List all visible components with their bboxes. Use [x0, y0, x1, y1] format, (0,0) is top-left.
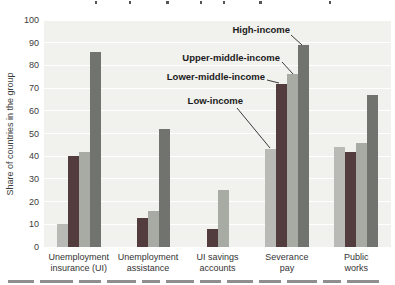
bar-high-income — [159, 129, 170, 247]
category-label-line: insurance (UI) — [44, 263, 113, 274]
bar-upper-middle-income — [287, 74, 298, 247]
cropped-title-letter-fragment — [329, 1, 331, 4]
gridline — [44, 42, 391, 43]
category-label-line: UI savings — [183, 252, 252, 263]
annotation-label-high-income: High-income — [232, 24, 290, 35]
cropped-title-letter-fragment — [166, 1, 169, 4]
bar-low-income — [57, 224, 68, 247]
bar-low-income — [334, 147, 345, 247]
bar-lower-middle-income — [207, 229, 218, 247]
bar-high-income — [298, 45, 309, 247]
cropped-caption-letter-fragment — [200, 280, 221, 283]
category-label-unemployment-assistance: Unemploymentassistance — [113, 252, 182, 274]
y-tick-label: 90 — [0, 38, 39, 49]
cropped-title-letter-fragment — [95, 1, 97, 4]
cropped-title-letter-fragment — [259, 1, 262, 4]
y-tick-label: 100 — [0, 15, 39, 26]
category-label-line: Public — [322, 252, 391, 263]
bar-low-income — [265, 149, 276, 247]
bar-lower-middle-income — [345, 152, 356, 247]
bar-upper-middle-income — [148, 211, 159, 247]
annotation-label-upper-middle-income: Upper-middle-income — [182, 52, 280, 63]
category-label-line: Severance — [252, 252, 321, 263]
category-label-line: Unemployment — [44, 252, 113, 263]
cropped-caption-letter-fragment — [8, 280, 34, 283]
bar-lower-middle-income — [68, 156, 79, 247]
category-label-line: works — [322, 263, 391, 274]
annotation-label-lower-middle-income: Lower-middle-income — [167, 71, 265, 82]
y-tick-label: 30 — [0, 174, 39, 185]
y-tick-label: 40 — [0, 151, 39, 162]
bar-lower-middle-income — [137, 218, 148, 248]
category-label-line: Unemployment — [113, 252, 182, 263]
cropped-caption-letter-fragment — [107, 280, 136, 283]
category-label-ui-savings-accounts: UI savingsaccounts — [183, 252, 252, 274]
y-tick-label: 70 — [0, 83, 39, 94]
gridline — [44, 20, 391, 21]
bar-high-income — [90, 52, 101, 247]
bar-high-income — [367, 95, 378, 247]
cropped-caption-letter-fragment — [323, 280, 341, 283]
cropped-title-letter-fragment — [129, 1, 131, 4]
cropped-caption-letter-fragment — [79, 280, 101, 283]
cropped-title-letter-fragment — [200, 1, 202, 4]
y-tick-label: 50 — [0, 129, 39, 140]
bar-upper-middle-income — [356, 143, 367, 247]
annotation-label-low-income: Low-income — [188, 95, 243, 106]
bar-upper-middle-income — [79, 152, 90, 247]
y-tick-label: 80 — [0, 60, 39, 71]
category-label-line: accounts — [183, 263, 252, 274]
cropped-caption-letter-fragment — [40, 280, 73, 283]
y-tick-label: 10 — [0, 219, 39, 230]
category-label-line: pay — [252, 263, 321, 274]
category-label-unemployment-insurance-ui-: Unemploymentinsurance (UI) — [44, 252, 113, 274]
cropped-caption-letter-fragment — [227, 280, 253, 283]
category-label-severance-pay: Severancepay — [252, 252, 321, 274]
y-tick-label: 60 — [0, 106, 39, 117]
cropped-title-letter-fragment — [223, 1, 225, 4]
cropped-caption-letter-fragment — [287, 280, 317, 283]
cropped-caption-letter-fragment — [166, 280, 194, 283]
cropped-caption-letter-fragment — [259, 280, 281, 283]
bar-upper-middle-income — [218, 190, 229, 247]
cropped-caption-letter-fragment — [142, 280, 160, 283]
bar-lower-middle-income — [276, 84, 287, 247]
cropped-caption-letter-fragment — [347, 280, 379, 283]
bar-chart-figure: Share of countries in the group 01020304… — [0, 0, 395, 285]
y-tick-label: 20 — [0, 197, 39, 208]
category-label-public-works: Publicworks — [322, 252, 391, 274]
category-label-line: assistance — [113, 263, 182, 274]
y-tick-label: 0 — [0, 242, 39, 253]
